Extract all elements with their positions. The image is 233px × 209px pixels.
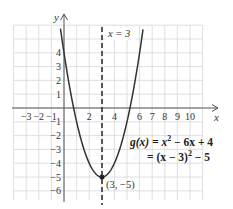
equation-line-1: g(x) = x2 − 6x + 4 xyxy=(129,134,213,149)
x-tick-label: 8 xyxy=(162,111,167,122)
x-tick-label: −3 xyxy=(21,111,32,122)
axes xyxy=(12,14,218,202)
x-tick-label: 6 xyxy=(137,111,142,122)
y-tick-label: −2 xyxy=(50,130,61,141)
x-tick-label: 7 xyxy=(150,111,155,122)
vertex-point xyxy=(100,175,105,180)
y-tick-label: 3 xyxy=(56,61,61,72)
y-tick-label: 4 xyxy=(56,47,61,58)
y-tick-label: −6 xyxy=(50,185,61,196)
y-tick-label: −4 xyxy=(50,158,61,169)
parabola-chart: −3−2−1246789104321−1−2−3−4−5−6 x y x = 3… xyxy=(0,0,233,209)
y-tick-label: −1 xyxy=(50,116,61,127)
x-tick-label: 9 xyxy=(175,111,180,122)
y-tick-label: −5 xyxy=(50,172,61,183)
equation-line-2: = (x − 3)2 − 5 xyxy=(147,149,210,164)
y-axis-label: y xyxy=(53,11,59,23)
y-tick-label: 1 xyxy=(56,89,61,100)
axis-of-symmetry-label: x = 3 xyxy=(107,28,130,39)
x-tick-label: 4 xyxy=(112,111,117,122)
vertex-label: (3, −5) xyxy=(106,179,135,191)
x-tick-label: 10 xyxy=(185,111,195,122)
x-axis-label: x xyxy=(213,111,219,123)
x-tick-label: 2 xyxy=(87,111,92,122)
x-tick-label: −2 xyxy=(33,111,44,122)
y-tick-label: −3 xyxy=(50,144,61,155)
y-tick-label: 2 xyxy=(56,75,61,86)
